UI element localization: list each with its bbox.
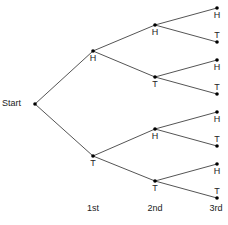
branch-line xyxy=(155,60,217,77)
level2-node-label: T xyxy=(152,80,158,89)
level-label-2nd: 2nd xyxy=(147,204,162,213)
level3-node-label: T xyxy=(214,187,220,196)
level3-node xyxy=(215,196,219,200)
branch-line xyxy=(93,129,155,156)
level3-node xyxy=(215,92,219,96)
level3-node xyxy=(215,144,219,148)
level1-node-label: T xyxy=(90,159,96,168)
level3-node-label: H xyxy=(214,167,221,176)
level3-node-label: T xyxy=(214,135,220,144)
level3-node-label: H xyxy=(214,11,221,20)
branch-line xyxy=(155,181,217,198)
branch-line xyxy=(93,51,155,77)
branch-line xyxy=(35,104,93,156)
start-node xyxy=(33,102,37,106)
branch-line xyxy=(35,51,93,104)
level2-node-label: H xyxy=(152,28,159,37)
level3-node-label: H xyxy=(214,63,221,72)
level-label-3rd: 3rd xyxy=(209,204,222,213)
start-label: Start xyxy=(2,99,21,108)
branch-line xyxy=(155,129,217,146)
branch-line xyxy=(155,112,217,129)
level3-node-label: H xyxy=(214,115,221,124)
level2-node-label: H xyxy=(152,132,159,141)
level3-node-label: T xyxy=(214,83,220,92)
level-label-1st: 1st xyxy=(87,204,99,213)
level2-node-label: T xyxy=(152,184,158,193)
level1-node-label: H xyxy=(90,54,97,63)
branch-line xyxy=(93,25,155,51)
branch-line xyxy=(155,77,217,94)
tree-diagram xyxy=(0,0,228,225)
branch-line xyxy=(93,156,155,181)
branch-line xyxy=(155,164,217,181)
branch-line xyxy=(155,25,217,42)
branch-line xyxy=(155,8,217,25)
level3-node-label: T xyxy=(214,31,220,40)
level3-node xyxy=(215,40,219,44)
